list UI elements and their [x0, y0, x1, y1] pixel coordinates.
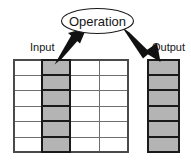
input-cell-shaded-r4	[42, 121, 70, 137]
input-cell-shaded-r5	[42, 137, 70, 152]
input-cell-shaded-r1	[42, 75, 70, 90]
output-arrow-shaft	[122, 27, 150, 59]
input-cell-shaded-r3	[42, 106, 70, 121]
output-cell-r3	[148, 106, 179, 121]
diagram-svg: Operation Input Output	[0, 0, 191, 162]
operation-node[interactable]: Operation	[62, 9, 134, 34]
output-cell-r4	[148, 121, 179, 137]
output-label: Output	[152, 41, 185, 53]
input-cell-shaded-r2	[42, 90, 70, 106]
output-table	[148, 60, 179, 152]
operation-label: Operation	[69, 14, 126, 29]
input-label: Input	[30, 41, 54, 53]
diagram-canvas: Operation Input Output	[0, 0, 191, 162]
output-cell-r2	[148, 90, 179, 106]
input-to-operation-arrow	[55, 28, 87, 65]
output-cell-r0	[148, 60, 179, 75]
output-cell-r5	[148, 137, 179, 152]
output-cell-r1	[148, 75, 179, 90]
input-table	[14, 60, 128, 152]
